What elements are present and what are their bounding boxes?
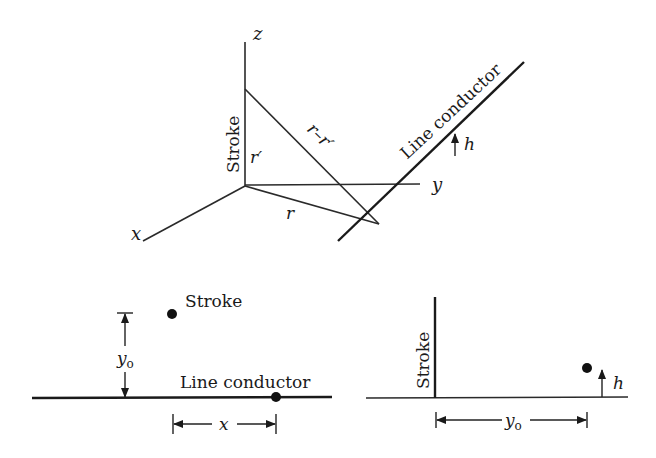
stroke-label-side: Stroke — [413, 332, 433, 389]
x-axis — [143, 186, 245, 241]
y-axis — [245, 184, 420, 185]
x-label-plan: x — [219, 414, 229, 434]
conductor-cross-section-dot — [582, 363, 592, 373]
stroke-point-dot — [167, 309, 177, 319]
y0-label-plan: yo — [116, 348, 134, 371]
conductor-point-dot — [271, 392, 281, 402]
line-conductor-plan — [32, 397, 332, 398]
line-conductor-3d — [338, 62, 524, 241]
height-label-3d: h — [464, 134, 475, 154]
stroke-label-plan: Stroke — [185, 291, 242, 311]
lightning-stroke-geometry-diagram: z x y r r–r′ r′ Stroke Line conductor h … — [0, 0, 656, 458]
bottom-right-side-view: Stroke h yo — [366, 297, 628, 433]
z-axis-label: z — [252, 23, 263, 44]
line-conductor-label-3d: Line conductor — [396, 59, 506, 163]
r-minus-r-prime-line — [245, 89, 379, 224]
r-label: r — [286, 203, 295, 223]
line-conductor-label-plan: Line conductor — [180, 372, 311, 392]
ground-line-side — [366, 397, 628, 398]
y-axis-label: y — [431, 174, 443, 195]
top-3d-panel: z x y r r–r′ r′ Stroke Line conductor h — [131, 23, 524, 244]
y0-label-side: yo — [504, 410, 522, 433]
height-label-side: h — [613, 373, 624, 393]
r-prime-label: r′ — [250, 147, 262, 167]
x-axis-label: x — [131, 223, 141, 244]
r-minus-r-prime-label: r–r′ — [303, 119, 337, 153]
r-vector-line — [245, 186, 379, 224]
stroke-label-3d: Stroke — [223, 116, 243, 173]
bottom-left-plan-view: Line conductor Stroke yo x — [32, 291, 332, 434]
